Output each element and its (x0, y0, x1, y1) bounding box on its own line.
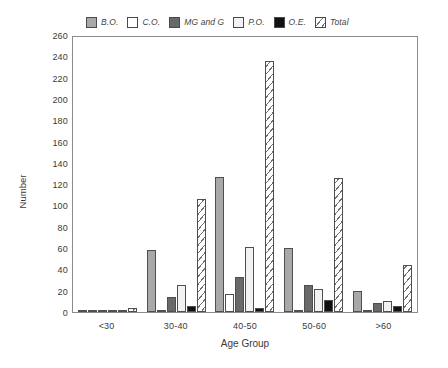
y-tick-label: 80 (6, 223, 68, 233)
bar-p-o[interactable] (177, 285, 186, 312)
bar-group (348, 37, 417, 312)
y-tick-label: 20 (6, 287, 68, 297)
bar-c-o[interactable] (363, 310, 372, 312)
y-tick-label: 240 (6, 52, 68, 62)
legend-item-b-o[interactable]: B.O. (86, 17, 118, 28)
bar-b-o[interactable] (78, 310, 87, 312)
x-tick-label: >60 (349, 314, 418, 334)
plot-area (72, 36, 418, 313)
legend-item-total[interactable]: Total (315, 17, 349, 28)
bar-mg-and-g[interactable] (167, 297, 176, 312)
bar-c-o[interactable] (225, 294, 234, 312)
y-tick-label: 140 (6, 159, 68, 169)
x-tick-label: 40-50 (210, 314, 279, 334)
co-swatch-icon (127, 17, 138, 28)
bo-swatch-icon (86, 17, 97, 28)
x-axis: <3030-4040-5050-60>60 (72, 314, 418, 334)
legend-item-p-o[interactable]: P.O. (233, 17, 264, 28)
legend-item-o-e[interactable]: O.E. (274, 17, 306, 28)
bar-c-o[interactable] (88, 310, 97, 312)
bar-p-o[interactable] (383, 301, 392, 312)
legend-label: C.O. (142, 17, 160, 27)
bar-o-e[interactable] (324, 300, 333, 312)
y-tick-label: 120 (6, 180, 68, 190)
mgg-swatch-icon (169, 17, 180, 28)
legend-item-mg-and-g[interactable]: MG and G (169, 17, 224, 28)
bar-group (142, 37, 211, 312)
bar-group (279, 37, 348, 312)
legend-label: O.E. (289, 17, 306, 27)
bar-mg-and-g[interactable] (373, 303, 382, 312)
oe-swatch-icon (274, 17, 285, 28)
bar-p-o[interactable] (108, 310, 117, 312)
legend-label: MG and G (184, 17, 224, 27)
bar-b-o[interactable] (284, 248, 293, 312)
legend-label: P.O. (248, 17, 264, 27)
y-tick-label: 0 (6, 308, 68, 318)
bar-b-o[interactable] (353, 291, 362, 312)
x-tick-label: <30 (72, 314, 141, 334)
bar-mg-and-g[interactable] (304, 285, 313, 312)
bar-group (73, 37, 142, 312)
bar-c-o[interactable] (294, 310, 303, 312)
y-tick-label: 100 (6, 201, 68, 211)
bar-b-o[interactable] (215, 177, 224, 312)
x-axis-title: Age Group (72, 338, 418, 349)
bar-o-e[interactable] (393, 306, 402, 312)
bar-c-o[interactable] (157, 310, 166, 312)
y-tick-label: 200 (6, 95, 68, 105)
bar-o-e[interactable] (255, 308, 264, 312)
total-swatch-icon (315, 17, 326, 28)
bar-total[interactable] (403, 265, 412, 312)
y-axis: Number 260240220200180160140120100806040… (0, 36, 72, 313)
legend-label: B.O. (101, 17, 118, 27)
bar-total[interactable] (197, 199, 206, 312)
bar-b-o[interactable] (147, 250, 156, 312)
bar-o-e[interactable] (118, 310, 127, 312)
chart-legend: B.O.C.O.MG and GP.O.O.E.Total (86, 14, 386, 30)
bar-group (211, 37, 280, 312)
y-tick-label: 220 (6, 74, 68, 84)
y-tick-label: 60 (6, 244, 68, 254)
y-tick-label: 180 (6, 116, 68, 126)
chart-figure: B.O.C.O.MG and GP.O.O.E.Total Number 260… (0, 0, 448, 368)
y-tick-label: 260 (6, 31, 68, 41)
bar-mg-and-g[interactable] (98, 310, 107, 312)
bar-total[interactable] (128, 308, 137, 312)
po-swatch-icon (233, 17, 244, 28)
y-tick-label: 160 (6, 138, 68, 148)
bar-p-o[interactable] (314, 289, 323, 312)
bar-o-e[interactable] (187, 306, 196, 312)
legend-label: Total (330, 17, 349, 27)
bar-groups (73, 37, 417, 312)
x-tick-label: 50-60 (280, 314, 349, 334)
bar-p-o[interactable] (245, 247, 254, 312)
legend-item-c-o[interactable]: C.O. (127, 17, 160, 28)
y-tick-label: 40 (6, 265, 68, 275)
bar-mg-and-g[interactable] (235, 277, 244, 312)
bar-total[interactable] (334, 178, 343, 312)
x-tick-label: 30-40 (141, 314, 210, 334)
bar-total[interactable] (265, 61, 274, 312)
